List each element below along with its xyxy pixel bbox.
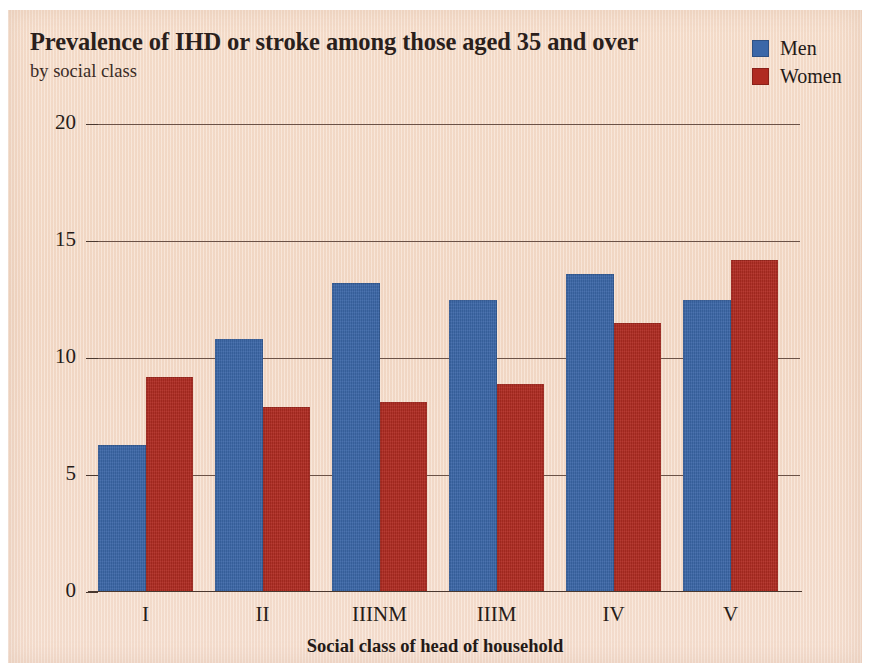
page-title: Prevalence of IHD or stroke among those … [30, 28, 630, 55]
plot-area [98, 124, 800, 592]
y-tick-mark [86, 241, 98, 242]
legend-item-men: Men [752, 34, 842, 62]
bar-iv-women [614, 323, 662, 592]
title-block: Prevalence of IHD or stroke among those … [30, 28, 630, 82]
x-tick-label-iiim: IIIM [437, 602, 557, 627]
legend-item-women: Women [752, 62, 842, 90]
x-tick-label-v: V [671, 602, 791, 627]
x-axis-line [88, 591, 802, 592]
y-tick-mark [86, 592, 98, 593]
bar-iiim-men [449, 300, 497, 593]
x-tick-label-iv: IV [554, 602, 674, 627]
bar-iiinm-men [332, 283, 380, 592]
bar-i-men [98, 445, 146, 592]
x-tick-label-iiinm: IIINM [320, 602, 440, 627]
gridline [98, 241, 800, 242]
y-tick-mark [86, 124, 98, 125]
bar-iv-men [566, 274, 614, 592]
y-tick-label: 0 [22, 578, 76, 603]
legend-label-women: Women [780, 65, 842, 88]
y-tick-label: 5 [22, 461, 76, 486]
x-tick-label-ii: II [203, 602, 323, 627]
y-tick-mark [86, 358, 98, 359]
y-tick-label: 15 [22, 227, 76, 252]
men-swatch-icon [752, 40, 769, 57]
bar-ii-women [263, 407, 311, 592]
bar-iiinm-women [380, 402, 428, 592]
bar-v-women [731, 260, 779, 592]
legend-label-men: Men [780, 37, 817, 60]
bar-i-women [146, 377, 194, 592]
chart-subtitle: by social class [30, 61, 630, 81]
gridline [98, 124, 800, 125]
x-axis-label: Social class of head of household [0, 636, 870, 657]
women-swatch-icon [752, 68, 769, 85]
bar-ii-men [215, 339, 263, 592]
chart-figure: Prevalence of IHD or stroke among those … [0, 0, 870, 671]
y-tick-label: 10 [22, 344, 76, 369]
x-tick-label-i: I [86, 602, 206, 627]
y-tick-mark [86, 475, 98, 476]
chart-legend: Men Women [752, 34, 842, 90]
bar-v-men [683, 300, 731, 593]
y-tick-label: 20 [22, 110, 76, 135]
bar-iiim-women [497, 384, 545, 592]
